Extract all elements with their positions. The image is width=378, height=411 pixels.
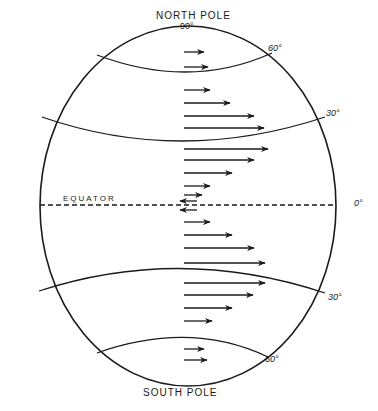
- lat-30s-label: 30°: [328, 292, 342, 302]
- lat-0-label: 0°: [354, 198, 363, 208]
- latitude-60s-line: [97, 337, 268, 357]
- north-pole-degree: 90°: [180, 21, 194, 31]
- lat-60s-label: 60°: [265, 354, 279, 364]
- lat-30n-label: 30°: [326, 108, 340, 118]
- latitude-30s-line: [39, 268, 325, 293]
- north-pole-label: NORTH POLE: [156, 10, 231, 21]
- lat-60n-label: 60°: [268, 43, 282, 53]
- diagram-canvas: NORTH POLE 90° 60° 30° 0° EQUATOR 30° 60…: [0, 0, 378, 411]
- south-pole-label: SOUTH POLE: [143, 387, 217, 398]
- latitude-60n-line: [97, 53, 272, 72]
- latitude-30n-line: [42, 117, 325, 141]
- wind-arrows: [180, 52, 268, 360]
- globe-diagram: [0, 0, 378, 411]
- equator-label: EQUATOR: [63, 194, 116, 203]
- globe-outline: [40, 26, 336, 386]
